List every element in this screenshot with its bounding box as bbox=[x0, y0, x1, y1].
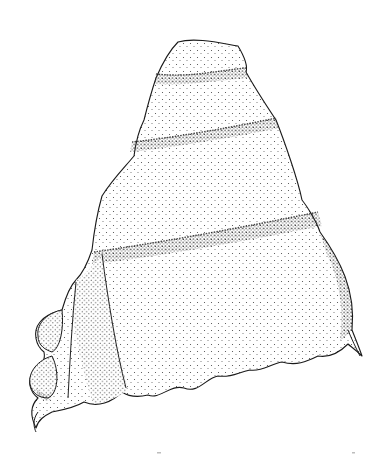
illustration-canvas bbox=[0, 0, 385, 457]
shell-illustration bbox=[0, 0, 385, 457]
shell-body bbox=[30, 40, 362, 428]
aperture-lobe-lower bbox=[30, 356, 57, 398]
speck bbox=[157, 452, 161, 454]
speck bbox=[352, 452, 355, 454]
